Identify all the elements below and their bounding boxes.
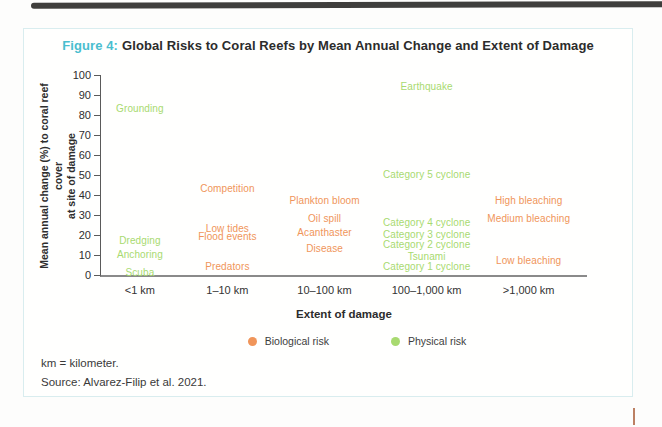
y-tick-label: 100	[65, 69, 91, 81]
x-category-label: >1,000 km	[503, 284, 555, 296]
y-tick-mark	[94, 235, 100, 236]
y-tick-mark	[94, 275, 100, 276]
y-tick-mark	[94, 75, 100, 76]
risk-label: Anchoring	[117, 250, 163, 261]
legend-item: Biological risk	[248, 335, 329, 347]
risk-label: Category 1 cyclone	[383, 262, 470, 273]
risk-label: Disease	[306, 244, 343, 255]
biological-risk-dot-icon	[248, 337, 257, 346]
y-tick-label: 40	[65, 189, 91, 201]
footnote: km = kilometer.	[41, 357, 119, 369]
figure-card: Figure 4:Global Risks to Coral Reefs by …	[23, 28, 633, 397]
risk-label: Acanthaster	[297, 228, 351, 239]
risk-label: Earthquake	[401, 82, 453, 93]
y-tick-label: 60	[65, 149, 91, 161]
scan-artifact-bottom-right	[633, 408, 635, 425]
figure-number: Figure 4:	[62, 38, 118, 53]
risk-label: Flood events	[198, 232, 256, 243]
risk-label: Category 2 cyclone	[383, 240, 470, 251]
risk-label: Category 4 cyclone	[383, 218, 470, 229]
y-tick-label: 80	[65, 109, 91, 121]
figure-title: Figure 4:Global Risks to Coral Reefs by …	[24, 38, 632, 53]
y-tick-label: 0	[65, 269, 91, 281]
legend: Biological riskPhysical risk	[101, 335, 587, 347]
y-tick-label: 70	[65, 129, 91, 141]
x-category-label: 10–100 km	[297, 284, 351, 296]
x-category-label: <1 km	[125, 284, 155, 296]
risk-label: Grounding	[116, 104, 164, 115]
risk-label: Dredging	[119, 236, 160, 247]
y-tick-label: 50	[65, 169, 91, 181]
y-tick-mark	[94, 195, 100, 196]
scan-artifact-top	[31, 1, 662, 9]
legend-item: Physical risk	[391, 335, 466, 347]
y-tick-label: 10	[65, 249, 91, 261]
y-tick-mark	[94, 95, 100, 96]
y-tick-mark	[94, 155, 100, 156]
y-tick-label: 30	[65, 209, 91, 221]
risk-label: Competition	[200, 184, 254, 195]
y-tick-mark	[94, 215, 100, 216]
figure-page: Figure 4:Global Risks to Coral Reefs by …	[0, 0, 662, 427]
physical-risk-dot-icon	[391, 337, 400, 346]
risk-label: Medium bleaching	[487, 214, 570, 225]
y-tick-mark	[94, 135, 100, 136]
legend-label: Biological risk	[265, 335, 329, 347]
y-tick-label: 20	[65, 229, 91, 241]
x-category-label: 1–10 km	[206, 284, 248, 296]
x-category-label: 100–1,000 km	[392, 284, 462, 296]
risk-label: Predators	[205, 262, 249, 273]
y-tick-label: 90	[65, 89, 91, 101]
x-axis-title: Extent of damage	[101, 308, 587, 320]
source-note: Source: Alvarez-Filip et al. 2021.	[41, 376, 207, 388]
y-axis-title-line1: Mean annual change (%) to coral reef cov…	[38, 71, 65, 281]
risk-label: Oil spill	[308, 214, 341, 225]
y-tick-mark	[94, 115, 100, 116]
figure-title-text: Global Risks to Coral Reefs by Mean Annu…	[122, 38, 594, 53]
risk-label: Low bleaching	[496, 256, 561, 267]
risk-label: Scuba	[125, 268, 154, 279]
risk-label: Category 5 cyclone	[383, 170, 470, 181]
risk-label: High bleaching	[495, 196, 563, 207]
risk-label: Plankton bloom	[289, 196, 359, 207]
legend-label: Physical risk	[408, 335, 466, 347]
y-tick-mark	[94, 255, 100, 256]
y-tick-mark	[94, 175, 100, 176]
plot-area: 1009080706050403020100 GroundingDredging…	[100, 75, 587, 277]
